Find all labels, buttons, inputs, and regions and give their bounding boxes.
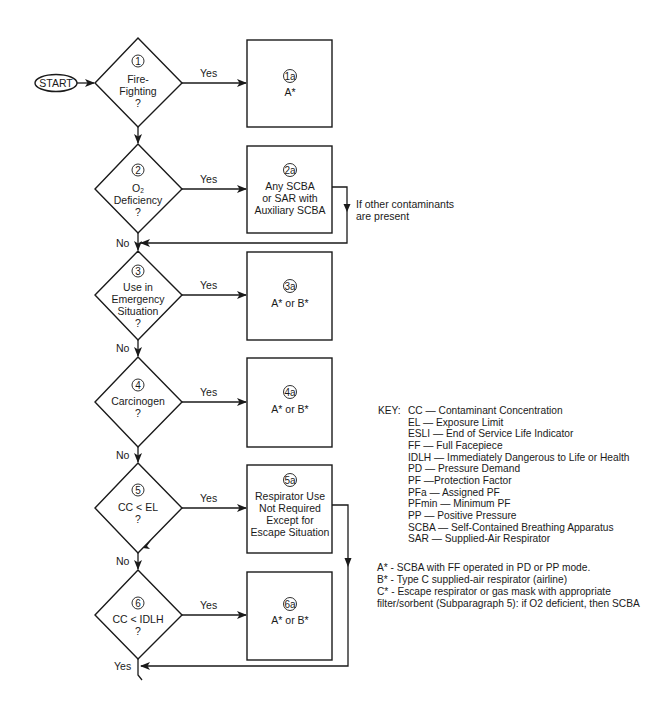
decision-2-o2-deficiency: 2 O2 Deficiency ? [95, 144, 182, 233]
decision-6-cc-less-than-idlh: 6 CC < IDLH ? [95, 570, 182, 659]
outcome-number: 5a [284, 475, 296, 486]
outcome-5a: 5a Respirator Use Not Required Except fo… [247, 465, 332, 553]
outcome-text: or SAR with [262, 192, 318, 204]
decision-text: Situation [118, 305, 159, 317]
decision-number: 3 [135, 266, 141, 277]
yes-label-5: Yes [200, 492, 217, 504]
decision-text: CC < EL [118, 501, 158, 513]
outcome-number: 4a [284, 387, 296, 398]
decision-text: Use in [123, 281, 153, 293]
outcome-4a: 4a A* or B* [247, 358, 332, 447]
down-arrowhead-icon [345, 558, 352, 567]
key-list: CC — Contaminant Concentration EL — Expo… [408, 405, 629, 545]
yes-label-4: Yes [200, 386, 217, 398]
decision-number: 6 [135, 598, 141, 609]
decision-text: Deficiency [114, 194, 163, 206]
decision-number: 4 [135, 380, 141, 391]
down-arrowhead-icon [344, 204, 351, 212]
decision-text: ? [135, 97, 141, 109]
decision-text: CC < IDLH [112, 613, 163, 625]
key-item: IDLH — Immediately Dangerous to Life or … [408, 452, 629, 464]
outcome-number: 3a [284, 281, 296, 292]
decision-3-emergency-situation: 3 Use in Emergency Situation ? [95, 251, 182, 340]
decision-text: ? [135, 206, 141, 218]
key-item: PD — Pressure Demand [408, 463, 629, 475]
decision-text: Fighting [119, 85, 157, 97]
other-contaminants-label: are present [356, 210, 409, 222]
outcome-text: Not Required [259, 502, 321, 514]
decision-number: 1 [135, 56, 141, 67]
decision-text: Fire- [127, 73, 149, 85]
yes-label-6: Yes [200, 599, 217, 611]
key-item: FF — Full Facepiece [408, 440, 629, 452]
decision-text: Carcinogen [111, 395, 165, 407]
key-item: PF —Protection Factor [408, 475, 629, 487]
footnote-a: A* - SCBA with FF operated in PD or PP m… [377, 562, 640, 574]
start-label: START [39, 77, 73, 89]
decision-text: ? [135, 317, 141, 329]
key-item: SAR — Supplied-Air Respirator [408, 533, 629, 545]
outcome-number: 1a [284, 71, 296, 82]
decision-text: ? [135, 625, 141, 637]
outcome-text: Escape Situation [251, 526, 330, 538]
outcome-2a: 2a Any SCBA or SAR with Auxiliary SCBA [247, 146, 332, 233]
outcome-3a: 3a A* or B* [247, 252, 332, 340]
no-label-5: No [116, 555, 130, 567]
key-item: CC — Contaminant Concentration [408, 405, 629, 417]
start-terminal: START [35, 75, 77, 92]
outcome-number: 6a [284, 599, 296, 610]
outcome-text: A* or B* [271, 403, 308, 415]
key-item: SCBA — Self-Contained Breathing Apparatu… [408, 522, 629, 534]
outcome-text: A* [284, 86, 295, 98]
outcome-text: Respirator Use [255, 490, 325, 502]
decision-1-fire-fighting: 1 Fire- Fighting ? [95, 38, 182, 127]
no-label-3: No [116, 342, 130, 354]
yes-label-1: Yes [200, 67, 217, 79]
footnote-b: B* - Type C supplied-air respirator (air… [377, 574, 640, 586]
no-label-4: No [116, 449, 130, 461]
outcome-text: A* or B* [271, 297, 308, 309]
outcome-text: Any SCBA [265, 180, 315, 192]
decision-number: 5 [135, 485, 141, 496]
footnote-c: C* - Escape respirator or gas mask with … [377, 586, 640, 598]
yes-label-2: Yes [200, 173, 217, 185]
key-item: PP — Positive Pressure [408, 510, 629, 522]
key-item: PFa — Assigned PF [408, 487, 629, 499]
no-label-2: No [116, 237, 130, 249]
key-item: EL — Exposure Limit [408, 417, 629, 429]
outcome-6a: 6a A* or B* [247, 572, 332, 660]
decision-text: ? [135, 513, 141, 525]
footnote-c-cont: filter/sorbent (Subparagraph 5): if O2 d… [377, 598, 640, 610]
key-title: KEY: [378, 405, 401, 416]
decision-number: 2 [135, 165, 141, 176]
yes-label-3: Yes [200, 279, 217, 291]
decision-text: ? [135, 407, 141, 419]
outcome-1a: 1a A* [247, 40, 332, 127]
outcome-text: A* or B* [271, 614, 308, 626]
outcome-text: Auxiliary SCBA [254, 204, 325, 216]
decision-4-carcinogen: 4 Carcinogen ? [95, 357, 182, 447]
outcome-text: Except for [266, 514, 314, 526]
footnotes: A* - SCBA with FF operated in PD or PP m… [377, 562, 640, 610]
decision-5-cc-less-than-el: 5 CC < EL ? [95, 463, 182, 553]
key-item: ESLI — End of Service Life Indicator [408, 428, 629, 440]
other-contaminants-label: If other contaminants [356, 198, 454, 210]
key-item: PFmin — Minimum PF [408, 498, 629, 510]
continue-stub [138, 659, 142, 680]
outcome-number: 2a [284, 165, 296, 176]
yes-label-6-bottom: Yes [114, 660, 131, 672]
decision-text: Emergency [111, 293, 165, 305]
